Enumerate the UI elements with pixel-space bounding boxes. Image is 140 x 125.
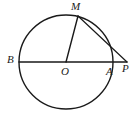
point-label-m: M xyxy=(71,1,80,12)
point-label-a: A xyxy=(106,66,113,77)
figure-canvas xyxy=(0,0,140,125)
point-label-p: P xyxy=(122,63,129,74)
geometry-figure: B O A P M xyxy=(0,0,140,125)
segment-tangent-mp xyxy=(78,16,127,62)
point-label-b: B xyxy=(7,54,14,65)
segment-radius-om xyxy=(66,16,78,62)
point-label-o: O xyxy=(61,66,69,77)
